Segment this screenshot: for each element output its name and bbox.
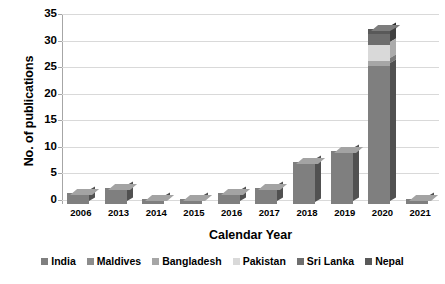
bar-stack [293,162,315,205]
bar-stack [180,199,202,204]
y-axis-tick-label: 25 [24,61,57,73]
y-axis-tick-label: 10 [24,141,57,153]
bars-layer [62,14,439,204]
legend-swatch-icon [87,258,94,265]
legend-item[interactable]: Maldives [87,255,141,267]
publications-by-year-chart: No. of publications 35302520151050 20062… [0,0,445,284]
bar-segment[interactable] [218,193,240,204]
legend-item-label: Pakistan [243,255,286,267]
y-axis-tick-label: 15 [24,114,57,126]
legend-item-label: India [51,255,76,267]
bar-segment[interactable] [331,151,353,204]
bar-top-face [145,195,174,201]
x-axis-tick-label: 2016 [212,207,252,218]
bar-top-face [183,195,212,201]
x-axis-tick-label: 2019 [325,207,365,218]
legend-swatch-icon [41,258,48,265]
bar-segment[interactable] [368,34,390,45]
legend-item-label: Bangladesh [162,255,222,267]
legend-item[interactable]: Bangladesh [152,255,222,267]
bar-stack [218,193,240,204]
x-axis-title: Calendar Year [62,228,439,242]
chart-legend: IndiaMaldivesBangladeshPakistanSri Lanka… [0,255,445,267]
y-axis-tick-labels: 35302520151050 [24,0,57,284]
bar-stack [255,188,277,204]
bar-segment[interactable] [406,199,428,204]
bar-segment[interactable] [293,162,315,205]
legend-item-label: Nepal [375,255,404,267]
bar-stack [331,151,353,204]
bar-segment[interactable] [67,193,89,204]
bar-segment[interactable] [368,45,390,61]
legend-item-label: Maldives [97,255,141,267]
x-axis-tick-labels: 2006201320142015201620172018201920202021 [62,207,439,223]
bar-segment[interactable] [105,188,127,204]
y-axis-tick-label: 5 [24,167,57,179]
bar-segment[interactable] [255,188,277,204]
x-axis-tick-label: 2013 [99,207,139,218]
legend-item-label: Sri Lanka [307,255,354,267]
x-axis-tick-label: 2006 [61,207,101,218]
x-axis-tick-label: 2017 [249,207,289,218]
bar-segment[interactable] [180,199,202,204]
bar-stack [67,193,89,204]
y-axis-tick-label: 0 [24,194,57,206]
bar-segment[interactable] [142,199,164,204]
bar-stack [368,29,390,204]
legend-swatch-icon [233,258,240,265]
bar-stack [142,199,164,204]
y-axis-tick-label: 35 [24,8,57,20]
bar-top-face [371,25,400,31]
x-axis-tick-label: 2018 [287,207,327,218]
bar-top-face [409,195,438,201]
bar-stack [105,188,127,204]
bar-top-face [258,184,287,190]
y-axis-tick-label: 30 [24,35,57,47]
x-axis-tick-label: 2015 [174,207,214,218]
legend-swatch-icon [152,258,159,265]
x-axis-tick-label: 2021 [400,207,440,218]
bar-side-face [390,59,396,201]
y-axis-tick-label: 20 [24,88,57,100]
bar-stack [406,199,428,204]
legend-swatch-icon [297,258,304,265]
x-axis-tick-label: 2014 [136,207,176,218]
legend-item[interactable]: Sri Lanka [297,255,354,267]
legend-item[interactable]: India [41,255,76,267]
legend-item[interactable]: Nepal [365,255,404,267]
bar-segment[interactable] [368,66,390,204]
x-axis-tick-label: 2020 [362,207,402,218]
legend-swatch-icon [365,258,372,265]
legend-item[interactable]: Pakistan [233,255,286,267]
